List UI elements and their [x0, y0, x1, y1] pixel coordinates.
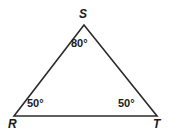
vertex-label-s: S	[79, 8, 87, 20]
angle-label-s: 80°	[71, 38, 88, 49]
vertex-label-r: R	[8, 118, 17, 130]
triangle-diagram-canvas: S R T 80° 50° 50°	[0, 0, 171, 135]
vertex-label-t: T	[153, 118, 160, 130]
angle-label-t: 50°	[118, 98, 135, 109]
angle-label-r: 50°	[27, 98, 44, 109]
